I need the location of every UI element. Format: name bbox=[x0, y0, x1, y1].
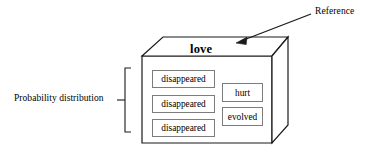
candidate-cell: disappeared bbox=[152, 70, 215, 88]
box-top-face bbox=[142, 37, 288, 56]
diagram-root: Reference Probability distribution love … bbox=[0, 0, 382, 154]
reference-annotation-label: Reference bbox=[315, 7, 354, 17]
candidate-cell: disappeared bbox=[152, 119, 215, 137]
candidate-cell: disappeared bbox=[152, 95, 215, 113]
probability-distribution-bracket bbox=[125, 68, 131, 132]
candidate-cell: evolved bbox=[222, 107, 263, 126]
candidate-cell: hurt bbox=[222, 83, 263, 102]
reference-word: love bbox=[190, 43, 212, 56]
box-right-face bbox=[272, 37, 288, 143]
probability-distribution-annotation-label: Probability distribution bbox=[14, 94, 104, 104]
